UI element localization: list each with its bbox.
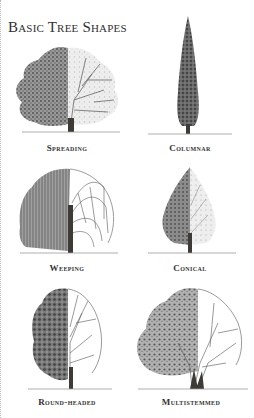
tree-panel-weeping: Weeping — [8, 163, 126, 275]
tree-panel-conical: Conical — [134, 163, 246, 275]
spreading-tree-illustration — [8, 40, 126, 140]
weeping-tree-illustration — [8, 163, 126, 259]
round-headed-tree-illustration — [8, 283, 126, 395]
tree-label-round-headed: Round-headed — [8, 397, 126, 407]
tree-label-multistemmed: Multistemmed — [128, 397, 254, 407]
tree-label-weeping: Weeping — [8, 263, 126, 273]
multistemmed-tree-illustration — [128, 283, 254, 395]
page-edge-border — [0, 0, 2, 418]
tree-panel-multistemmed: Multistemmed — [128, 283, 254, 409]
tree-label-spreading: Spreading — [8, 143, 126, 153]
tree-panel-spreading: Spreading — [8, 40, 126, 158]
columnar-tree-illustration — [134, 12, 246, 138]
tree-label-columnar: Columnar — [134, 143, 246, 153]
tree-panel-round-headed: Round-headed — [8, 283, 126, 409]
page-title: Basic Tree Shapes — [8, 19, 127, 36]
tree-panel-columnar: Columnar — [134, 12, 246, 158]
conical-tree-illustration — [134, 163, 246, 259]
tree-label-conical: Conical — [134, 263, 246, 273]
